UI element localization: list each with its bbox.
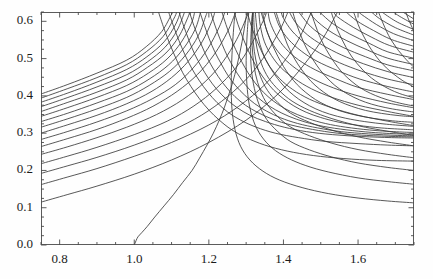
y-axis-tick-label-1: 0.1	[0, 199, 33, 215]
y-axis-tick-label-3: 0.3	[0, 124, 33, 140]
y-axis-tick-label-2: 0.2	[0, 161, 33, 177]
x-axis-tick-label-4: 1.6	[333, 251, 383, 267]
y-axis-tick-label-4: 0.4	[0, 87, 33, 103]
plot-canvas	[0, 0, 433, 279]
x-axis-tick-label-1: 1.0	[109, 251, 159, 267]
x-axis-tick-label-2: 1.2	[184, 251, 234, 267]
x-axis-tick-label-0: 0.8	[35, 251, 85, 267]
contour-plot-figure: 0.81.01.21.41.60.00.10.20.30.40.50.6	[0, 0, 433, 279]
y-axis-tick-label-5: 0.5	[0, 50, 33, 66]
y-axis-tick-label-0: 0.0	[0, 236, 33, 252]
y-axis-tick-label-6: 0.6	[0, 12, 33, 28]
x-axis-tick-label-3: 1.4	[258, 251, 308, 267]
